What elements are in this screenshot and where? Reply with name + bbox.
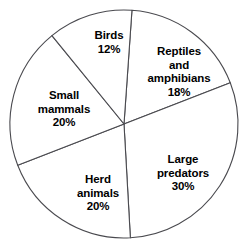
pie-chart-svg (0, 0, 242, 245)
pie-chart-figure: Reptiles and amphibians 18% Large predat… (0, 0, 242, 245)
